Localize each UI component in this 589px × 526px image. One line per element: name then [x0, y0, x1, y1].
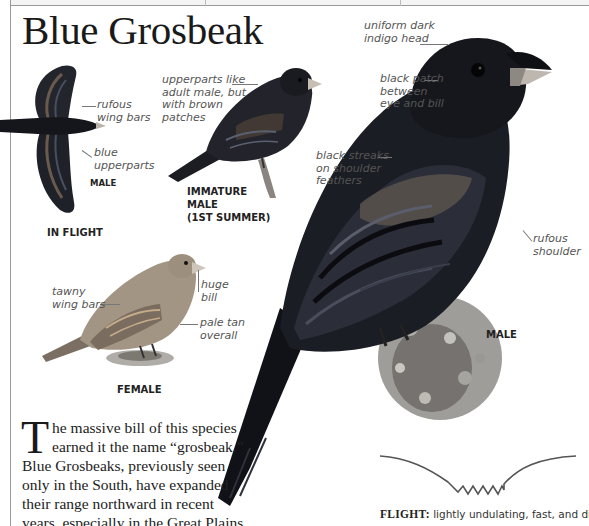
annotation-blue-upperparts: blue upperparts [94, 147, 155, 172]
top-rule [10, 0, 589, 6]
top-tick [205, 0, 206, 6]
top-tick [400, 0, 401, 6]
leader-line [82, 106, 96, 107]
flight-caption: FLIGHT: lightly undulating, fast, and di… [380, 508, 589, 520]
species-description: The massive bill of this species earned … [22, 418, 252, 526]
annotation-black-patch: black patch between eye and bill [380, 73, 444, 111]
annotation-uniform-dark-indigo-head: uniform dark indigo head [364, 20, 435, 45]
annotation-rufous-wing-bars: rufous wing bars [97, 99, 150, 124]
annotation-tawny-wing-bars: tawny wing bars [52, 286, 105, 311]
flight-pattern-diagram [378, 450, 578, 500]
male-caption: MALE [486, 328, 517, 341]
leader-line [180, 324, 198, 325]
leader-line [198, 270, 199, 292]
description-text: he massive bill of this species earned i… [22, 419, 247, 526]
in-flight-sex-label: MALE [90, 177, 116, 190]
female-illustration [40, 246, 210, 376]
in-flight-caption: IN FLIGHT [47, 226, 103, 239]
male-in-flight-illustration [0, 62, 110, 222]
annotation-rufous-shoulder: rufous shoulder [533, 233, 581, 258]
female-caption: FEMALE [117, 383, 162, 396]
annotation-black-streaks: black streaks on shoulder feathers [316, 150, 389, 188]
drop-cap: T [21, 420, 49, 456]
flight-description: lightly undulating, fast, and direct. [430, 508, 589, 520]
flight-label: FLIGHT: [380, 508, 430, 520]
